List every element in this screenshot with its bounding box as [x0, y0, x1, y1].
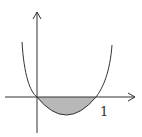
parabola-graph: 1 [0, 0, 142, 137]
x-tick-label-1: 1 [100, 104, 108, 119]
diagram-canvas: 1 [0, 0, 142, 137]
